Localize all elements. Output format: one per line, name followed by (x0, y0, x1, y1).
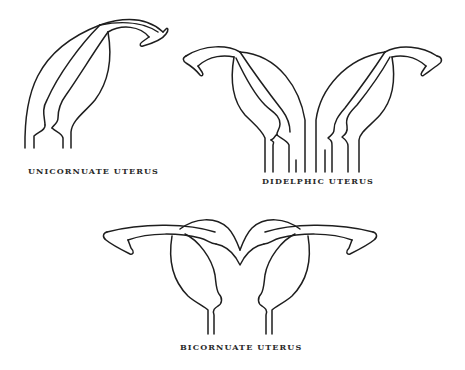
didelphic-left-uterus-drawing (183, 47, 305, 172)
uterine-anomalies-figure: UNICORNUATE UTERUS DIDELPHIC UTERUS BICO… (0, 0, 465, 370)
didelphic-uterus-label: DIDELPHIC UTERUS (262, 176, 374, 186)
unicornuate-uterus-drawing (25, 20, 168, 148)
bicornuate-uterus-drawing (103, 220, 376, 334)
bicornuate-uterus-label: BICORNUATE UTERUS (180, 342, 302, 352)
unicornuate-uterus-label: UNICORNUATE UTERUS (28, 166, 159, 176)
diagram-drawings (0, 0, 465, 370)
didelphic-right-uterus-drawing (316, 47, 441, 172)
